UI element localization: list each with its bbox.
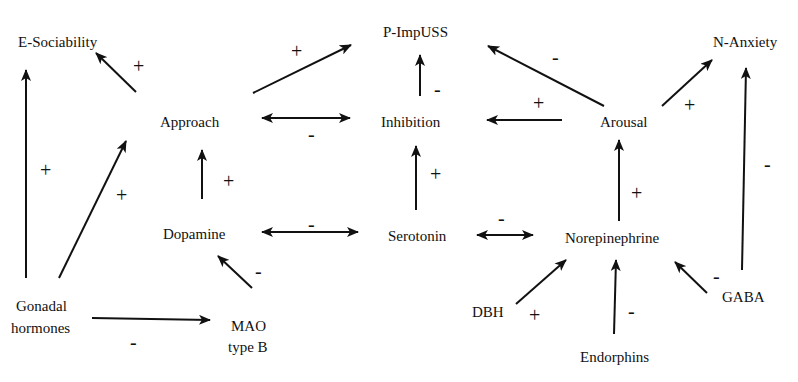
node-inhibition: Inhibition <box>381 114 441 130</box>
sign-approach-to-pimpuss: + <box>291 40 302 62</box>
sign-endorphins-to-norepinephrine: - <box>628 300 635 322</box>
sign-gaba-to-norepinephrine: - <box>713 265 720 287</box>
node-serotonin: Serotonin <box>388 228 447 244</box>
node-mao-type-b-line1: MAO <box>231 318 266 334</box>
node-endorphins: Endorphins <box>580 349 649 365</box>
node-dopamine: Dopamine <box>163 226 226 242</box>
node-norepinephrine: Norepinephrine <box>565 230 659 246</box>
arrow-dbh-to-norepinephrine <box>516 260 566 304</box>
arrow-approach-to-esociability <box>96 53 136 92</box>
node-gonadal-hormones-line1: Gonadal <box>16 298 67 314</box>
node-dbh: DBH <box>472 304 504 320</box>
arrow-arousal-to-pimpuss <box>488 46 604 106</box>
node-gonadal-hormones-line2: hormones <box>11 320 70 336</box>
sign-dbh-to-norepinephrine: + <box>529 304 540 326</box>
sign-arousal-to-nanxiety: + <box>684 94 695 116</box>
arrow-gonadal-to-mao <box>92 318 210 320</box>
arrow-mao-to-dopamine <box>218 256 252 288</box>
sign-dopamine-to-approach: + <box>223 170 234 192</box>
sign-mao-to-dopamine: - <box>255 260 262 282</box>
sign-gaba-to-nanxiety: - <box>764 153 771 175</box>
sign-dopamine-serotonin: - <box>308 213 315 235</box>
arrow-endorphins-to-norepinephrine <box>614 260 616 334</box>
sign-serotonin-to-inhibition: + <box>430 163 441 185</box>
arrow-gaba-to-nanxiety <box>742 68 746 270</box>
node-e-sociability: E-Sociability <box>18 34 98 50</box>
node-p-impuss: P-ImpUSS <box>383 24 448 40</box>
sign-serotonin-norepinephrine: - <box>498 207 505 229</box>
node-mao-type-b-line2: type B <box>228 339 268 355</box>
sign-arousal-to-inhibition: + <box>533 92 544 114</box>
sign-gonadal-to-approach: + <box>116 184 127 206</box>
neurotransmitter-trait-diagram: ++++---+++++-----+-- E-Sociability P-Imp… <box>0 0 798 382</box>
node-n-anxiety: N-Anxiety <box>713 34 778 50</box>
node-gaba: GABA <box>722 289 765 305</box>
sign-arousal-to-pimpuss: - <box>552 46 559 68</box>
arrow-gonadal-to-approach <box>59 141 126 278</box>
sign-approach-inhibition: - <box>308 123 315 145</box>
sign-approach-to-esociability: + <box>133 55 144 77</box>
signs-layer: ++++---+++++-----+-- <box>40 40 771 353</box>
node-arousal: Arousal <box>600 114 648 130</box>
sign-gonadal-to-esociability: + <box>40 159 51 181</box>
node-approach: Approach <box>160 114 220 130</box>
sign-norepinephrine-to-arousal: + <box>631 182 642 204</box>
sign-gonadal-to-mao: - <box>130 331 137 353</box>
sign-inhibition-to-pimpuss: - <box>434 78 441 100</box>
arrow-gaba-to-norepinephrine <box>675 262 707 293</box>
